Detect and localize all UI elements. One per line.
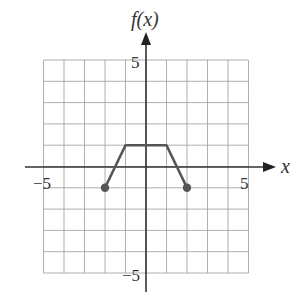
y-max-tick-label: 5 bbox=[131, 53, 140, 72]
closed-endpoint-dot bbox=[183, 184, 191, 192]
y-min-tick-label: −5 bbox=[122, 266, 140, 285]
closed-endpoint-dot bbox=[101, 184, 109, 192]
x-min-tick-label: −5 bbox=[33, 174, 51, 193]
function-graph: f(x) x −5 5 5 −5 bbox=[0, 0, 302, 295]
x-axis-arrow-icon bbox=[263, 162, 276, 172]
x-max-tick-label: 5 bbox=[240, 174, 249, 193]
y-axis-arrow-icon bbox=[141, 32, 151, 45]
y-axis-label: f(x) bbox=[131, 8, 159, 31]
x-axis-label: x bbox=[280, 155, 290, 177]
